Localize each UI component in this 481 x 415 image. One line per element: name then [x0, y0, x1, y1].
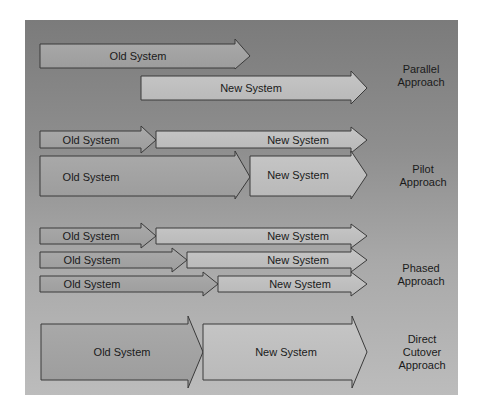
phased-approach-label: Phased Approach [397, 262, 444, 288]
direct-cutover-approach-label: Direct Cutover Approach [398, 333, 445, 372]
arrow-label: New System [220, 82, 282, 94]
arrow-label: Old System [64, 278, 121, 290]
arrow-label: Old System [63, 171, 120, 183]
arrow-label: New System [267, 134, 329, 146]
pilot-approach-label: Pilot Approach [399, 163, 446, 189]
arrow-label: Old System [94, 346, 151, 358]
arrow-label: New System [267, 254, 329, 266]
parallel-approach-label: Parallel Approach [397, 63, 444, 89]
arrow-label: New System [269, 278, 331, 290]
phased-new-arrow-1 [156, 224, 367, 248]
arrow-label: Old System [110, 50, 167, 62]
arrow-label: Old System [64, 254, 121, 266]
arrow-label: Old System [63, 134, 120, 146]
arrow-label: Old System [63, 230, 120, 242]
arrow-label: New System [267, 169, 329, 181]
arrow-label: New System [267, 230, 329, 242]
arrow-label: New System [255, 346, 317, 358]
pilot-new-arrow-1 [156, 127, 367, 153]
